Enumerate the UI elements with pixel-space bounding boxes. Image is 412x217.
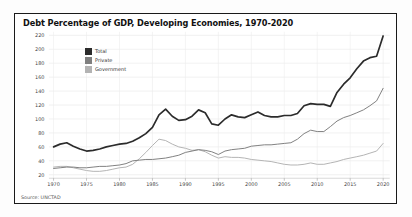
x-tick-label: 2005 [278, 181, 291, 187]
y-tick-label: 220 [35, 32, 44, 38]
screenshot-root: Debt Percentage of GDP, Developing Econo… [0, 0, 412, 217]
x-tick-label: 1980 [113, 181, 126, 187]
line-plot: 2040608010012014016018020022019701975198… [15, 14, 396, 203]
y-tick-label: 60 [38, 144, 44, 150]
y-tick-label: 20 [38, 172, 44, 178]
legend-swatch-private-icon [85, 57, 92, 64]
x-tick-label: 1985 [146, 181, 159, 187]
y-tick-label: 200 [35, 46, 44, 52]
y-tick-label: 160 [35, 74, 44, 80]
legend-label-private: Private [95, 58, 112, 63]
y-tick-label: 40 [38, 158, 44, 164]
legend-item-private: Private [85, 57, 126, 64]
source-note: Source: UNCTAD [21, 195, 61, 200]
x-tick-label: 1975 [80, 181, 93, 187]
chart-card: Debt Percentage of GDP, Developing Econo… [14, 13, 397, 204]
legend: Total Private Government [85, 48, 126, 73]
legend-item-total: Total [85, 48, 126, 55]
legend-label-government: Government [95, 67, 126, 72]
x-tick-label: 2000 [245, 181, 258, 187]
y-tick-label: 180 [35, 60, 44, 66]
x-tick-label: 2010 [311, 181, 324, 187]
legend-swatch-government-icon [85, 66, 92, 73]
legend-item-government: Government [85, 66, 126, 73]
legend-label-total: Total [95, 49, 107, 54]
y-tick-label: 140 [35, 88, 44, 94]
x-tick-label: 1970 [47, 181, 60, 187]
x-tick-label: 1990 [179, 181, 192, 187]
x-tick-label: 2015 [344, 181, 357, 187]
y-tick-label: 100 [35, 116, 44, 122]
x-tick-label: 1995 [212, 181, 225, 187]
y-tick-label: 120 [35, 102, 44, 108]
x-tick-label: 2020 [377, 181, 390, 187]
legend-swatch-total-icon [85, 48, 92, 55]
y-tick-label: 80 [38, 130, 44, 136]
